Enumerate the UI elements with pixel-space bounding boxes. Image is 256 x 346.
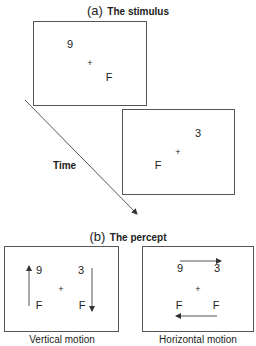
time-arrow-icon: [25, 100, 137, 214]
arrows-overlay: [0, 0, 256, 346]
